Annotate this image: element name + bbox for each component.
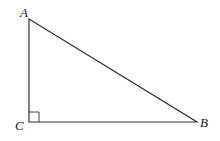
triangle-abc [29, 19, 197, 122]
vertex-label-c: C [15, 118, 24, 133]
triangle-diagram: A B C [0, 0, 220, 141]
right-angle-marker [29, 112, 39, 122]
vertex-label-b: B [200, 115, 208, 130]
vertex-label-a: A [19, 5, 28, 20]
